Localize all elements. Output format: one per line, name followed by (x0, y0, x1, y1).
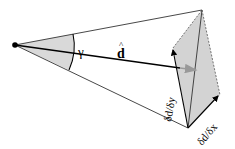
partial-x-label: δd/δx (194, 120, 219, 147)
diagram-canvas: γ ^ d δd/δy δd/δx (0, 0, 235, 149)
cone-edge-top (15, 10, 202, 45)
ray-differential-diagram: γ ^ d δd/δy δd/δx (0, 0, 235, 149)
eye-point (12, 42, 18, 48)
direction-label: d (117, 46, 125, 61)
partial-y-label: δd/δy (161, 96, 177, 123)
footprint-quad (173, 10, 220, 128)
angle-label: γ (77, 44, 84, 59)
